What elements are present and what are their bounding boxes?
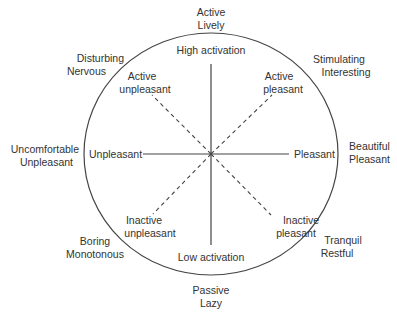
- diagonal-inactive-pleasant: [211, 154, 271, 215]
- label-high-activation: High activation: [161, 44, 261, 57]
- outer-label-bottom-left: Boring Monotonous: [60, 235, 130, 261]
- outer-label-right: Beautiful Pleasant: [342, 140, 397, 166]
- diagonal-inactive-unpleasant: [153, 154, 211, 214]
- outer-label-top: Active Lively: [181, 6, 241, 32]
- outer-label-left: Uncomfortable Unpleasant: [0, 143, 79, 169]
- outer-label-bottom: Passive Lazy: [181, 284, 241, 310]
- label-unpleasant: Unpleasant: [89, 148, 142, 161]
- outer-label-bottom-right: Tranquil Restful: [302, 234, 372, 260]
- diagonal-active-pleasant: [211, 95, 272, 154]
- diagonal-active-unpleasant: [152, 95, 211, 154]
- label-pleasant: Pleasant: [294, 148, 335, 161]
- outer-label-top-right: Stimulating Interesting: [296, 53, 396, 79]
- label-low-activation: Low activation: [161, 251, 261, 264]
- outer-label-top-left: Disturbing Nervous: [40, 52, 124, 78]
